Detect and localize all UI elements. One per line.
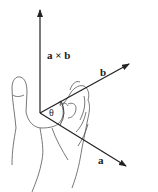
label-axb: a × b xyxy=(47,50,70,61)
label-theta: θ xyxy=(49,108,54,118)
hand-icon xyxy=(12,77,90,192)
label-b: b xyxy=(100,67,106,78)
diagram-canvas xyxy=(0,0,158,192)
cross-product-diagram: a × b b a θ xyxy=(0,0,158,192)
label-a: a xyxy=(98,155,104,166)
